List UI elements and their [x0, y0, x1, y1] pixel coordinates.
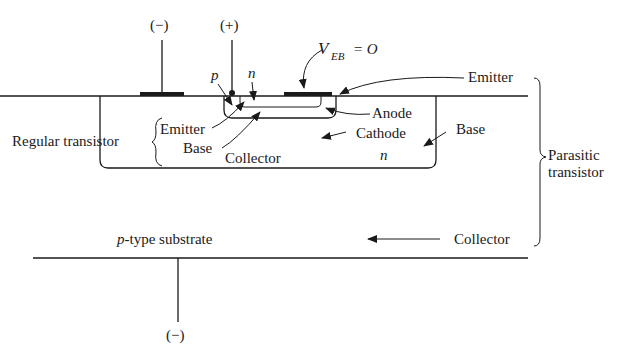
n-inner-region [240, 96, 321, 107]
veb-label: V [318, 39, 331, 58]
parasitic-base-arrow [424, 132, 446, 146]
veb-contact [284, 92, 332, 96]
parasitic-emitter-arrow [340, 77, 464, 94]
n-well-label: n [380, 147, 388, 163]
parasitic-emitter-label: Emitter [468, 69, 513, 85]
parasitic-transistor-label-line1: Parasitic [548, 147, 600, 163]
veb-subscript: EB [330, 50, 345, 62]
parasitic-transistor-brace [534, 78, 546, 246]
n-label: n [248, 65, 256, 81]
substrate-label: p-type substrate [116, 231, 213, 247]
anode-label: Anode [372, 105, 412, 121]
regular-emitter-label: Emitter [160, 121, 205, 137]
left-contact [140, 92, 184, 96]
terminal-label-minus-top: (−) [150, 17, 168, 34]
regular-base-label: Base [183, 140, 213, 156]
parasitic-base-label: Base [456, 121, 486, 137]
veb-equals: = O [353, 41, 378, 57]
parasitic-collector-label: Collector [454, 231, 510, 247]
cathode-arrow [322, 132, 346, 138]
regular-transistor-label: Regular transistor [12, 133, 119, 149]
cathode-label: Cathode [356, 125, 406, 141]
parasitic-transistor-label-line2: transistor [548, 164, 604, 180]
terminal-label-minus-bottom: (−) [166, 327, 184, 344]
regular-emitter-arrow [212, 102, 244, 128]
anode-arrow [326, 108, 370, 114]
p-label: p [210, 67, 219, 83]
terminal-label-plus: (+) [220, 17, 238, 34]
regular-collector-label: Collector [225, 150, 281, 166]
n-arrow [252, 82, 254, 100]
parasitic-transistor-diagram: (−) (+) (−) p n V EB = O Emitter Anode C… [0, 0, 629, 354]
